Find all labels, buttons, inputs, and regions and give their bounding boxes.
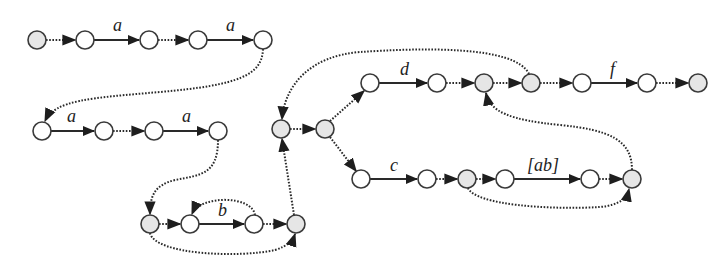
state xyxy=(245,215,263,233)
state-shaded xyxy=(316,120,334,138)
state xyxy=(145,122,163,140)
label-b: b xyxy=(218,200,227,220)
state-shaded xyxy=(522,74,540,92)
state xyxy=(361,74,379,92)
state xyxy=(140,31,158,49)
edge-epsilon-skip-ab xyxy=(468,188,629,208)
label-a: a xyxy=(226,15,235,35)
state-shaded xyxy=(623,170,641,188)
edges-row-2 xyxy=(51,131,218,214)
state xyxy=(581,170,599,188)
state-final xyxy=(689,74,707,92)
state xyxy=(573,74,591,92)
state xyxy=(254,31,272,49)
edge-epsilon-wrap-2 xyxy=(150,140,218,214)
state-start xyxy=(28,31,46,49)
label-a: a xyxy=(67,106,76,126)
state xyxy=(189,31,207,49)
edges-row-1 xyxy=(45,40,263,121)
label-a: a xyxy=(113,15,122,35)
state xyxy=(76,31,94,49)
label-f: f xyxy=(610,59,618,79)
state-shaded xyxy=(475,74,493,92)
edge-epsilon-up xyxy=(282,139,294,215)
state xyxy=(638,74,656,92)
state xyxy=(209,122,227,140)
state-shaded xyxy=(272,120,290,138)
state xyxy=(181,215,199,233)
label-ab: [ab] xyxy=(527,155,559,175)
state xyxy=(95,122,113,140)
nfa-diagram: a a a a b d f c [ab] xyxy=(0,0,728,275)
state xyxy=(33,122,51,140)
state xyxy=(428,74,446,92)
edge-epsilon-wrap-1 xyxy=(45,49,263,121)
label-c: c xyxy=(390,155,398,175)
edge-epsilon-branch-top xyxy=(330,91,364,121)
edge-epsilon-skip-b xyxy=(150,233,295,254)
edges-row-3 xyxy=(150,139,295,254)
edge-epsilon-branch-bottom xyxy=(330,137,356,171)
state xyxy=(418,170,436,188)
state-shaded xyxy=(141,215,159,233)
state xyxy=(352,170,370,188)
label-a: a xyxy=(182,106,191,126)
label-d: d xyxy=(400,59,410,79)
state-shaded xyxy=(287,215,305,233)
state-shaded xyxy=(458,170,476,188)
state xyxy=(496,170,514,188)
